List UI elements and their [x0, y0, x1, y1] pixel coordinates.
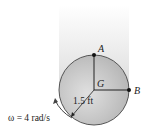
- point-b: [127, 88, 131, 92]
- point-a: [92, 53, 96, 57]
- label-a: A: [97, 43, 105, 54]
- angular-velocity-label: ω = 4 rad/s: [8, 113, 50, 123]
- disk-diagram: A B G 1.5 ft ω = 4 rad/s: [0, 0, 152, 138]
- radius-label: 1.5 ft: [73, 96, 93, 106]
- label-g: G: [97, 78, 104, 89]
- label-b: B: [134, 85, 140, 96]
- rotation-arrowhead-icon: [53, 98, 58, 104]
